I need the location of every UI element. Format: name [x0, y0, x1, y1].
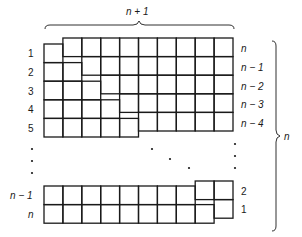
grid-cell: [63, 81, 82, 100]
right-label-1: 1: [241, 204, 247, 215]
grid-cell: [139, 57, 158, 76]
right-label-n: n: [241, 43, 247, 54]
grid-cell: [120, 118, 139, 137]
grid-cell: [139, 186, 158, 205]
grid-cell: [82, 81, 101, 100]
grid-cell: [139, 75, 158, 94]
grid-cell: [176, 94, 195, 113]
grid-cell: [44, 186, 63, 205]
left-label-1: 1: [28, 48, 34, 59]
grid-cell: [176, 38, 195, 57]
grid-cell: [214, 94, 233, 113]
grid-cell: [82, 38, 101, 57]
grid-cell: [120, 205, 139, 224]
grid-cell: [63, 38, 82, 57]
grid-cell: [82, 100, 101, 119]
grid-cell: [120, 75, 139, 94]
left-label-n-minus-1: n − 1: [10, 190, 33, 201]
grid-cell: [120, 38, 139, 57]
grid-cell: [63, 118, 82, 137]
left-label-5: 5: [28, 123, 34, 134]
staircase-diagram: n + 1 n 1 2 3 4 5 n − 1 n n n − 1 n − 2 …: [0, 0, 302, 237]
grid-cell: [176, 205, 195, 224]
left-label-n: n: [28, 209, 34, 220]
grid-cell: [101, 186, 120, 205]
grid-cell: [195, 38, 214, 57]
grid-cell: [120, 57, 139, 76]
grid-cell: [157, 186, 176, 205]
grid-cell: [157, 57, 176, 76]
grid-cell: [101, 100, 120, 119]
grid-cell: [195, 75, 214, 94]
grid-cell: [101, 57, 120, 76]
grid-cell: [157, 205, 176, 224]
grid-cell: [214, 75, 233, 94]
grid-cell: [139, 38, 158, 57]
grid-cell: [82, 118, 101, 137]
grid-cell: [82, 205, 101, 224]
grid-cell: [82, 57, 101, 76]
grid-cell: [139, 205, 158, 224]
grid-cell: [214, 200, 233, 219]
grid-cell: [157, 94, 176, 113]
grid-cell: [44, 205, 63, 224]
grid-cell: [195, 112, 214, 131]
ellipsis-dots: [31, 143, 236, 174]
top-brace-label: n + 1: [126, 6, 149, 17]
grid-cell: [157, 75, 176, 94]
right-brace: [272, 41, 280, 231]
grid-cell: [44, 81, 63, 100]
grid-cell: [176, 112, 195, 131]
grid-cell: [214, 112, 233, 131]
right-label-2: 2: [241, 186, 247, 197]
top-brace: [45, 21, 234, 29]
grid-cell: [63, 186, 82, 205]
grid-cell: [195, 181, 214, 200]
grid-cell: [82, 186, 101, 205]
grid-cell: [139, 112, 158, 131]
grid-cell: [195, 57, 214, 76]
grid-cell: [101, 38, 120, 57]
grid-cell: [101, 205, 120, 224]
grid-cell: [214, 181, 233, 200]
left-label-4: 4: [28, 104, 34, 115]
grid-cell: [214, 38, 233, 57]
grid-cell: [157, 38, 176, 57]
right-label-n-minus-3: n − 3: [241, 99, 264, 110]
grid-cell: [176, 75, 195, 94]
grid-cell: [44, 100, 63, 119]
grid-cell: [195, 205, 214, 224]
grid-cell: [101, 75, 120, 94]
grid-cell: [214, 57, 233, 76]
grid-cell: [44, 44, 63, 63]
grid-cells: [44, 38, 233, 223]
grid-cell: [176, 186, 195, 205]
grid-cell: [63, 100, 82, 119]
grid-cell: [176, 57, 195, 76]
right-label-n-minus-2: n − 2: [241, 81, 264, 92]
left-label-2: 2: [28, 67, 34, 78]
grid-cell: [101, 118, 120, 137]
grid-cell: [157, 112, 176, 131]
grid-cell: [120, 94, 139, 113]
right-label-n-minus-1: n − 1: [241, 62, 264, 73]
grid-cell: [63, 63, 82, 82]
grid-cell: [139, 94, 158, 113]
right-label-n-minus-4: n − 4: [241, 118, 264, 129]
grid-cell: [63, 205, 82, 224]
grid-cell: [120, 186, 139, 205]
grid-cell: [44, 63, 63, 82]
left-label-3: 3: [28, 86, 34, 97]
grid-cell: [195, 94, 214, 113]
right-brace-label: n: [284, 131, 290, 142]
grid-cell: [44, 118, 63, 137]
